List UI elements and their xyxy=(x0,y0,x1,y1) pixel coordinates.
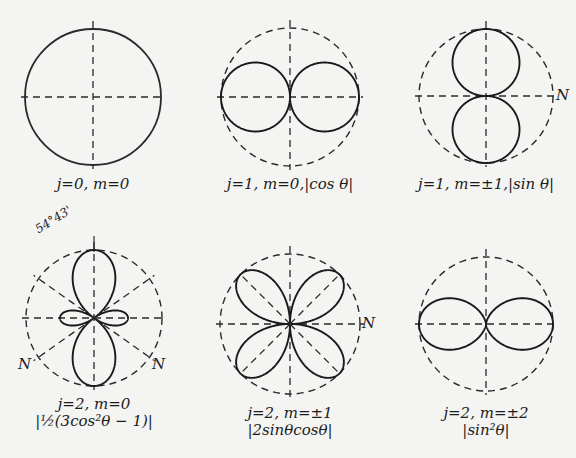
node-label-n-left: N xyxy=(18,355,31,373)
caption-line2: |½(3cos²θ − 1)| xyxy=(35,413,153,430)
diagonal-line xyxy=(241,275,290,324)
caption-j2-m2: j=2, m=±2 |sin²θ| xyxy=(443,405,528,439)
caption-j2-m0: j=2, m=0 |½(3cos²θ − 1)| xyxy=(35,396,153,430)
caption-line1: j=2, m=±1 xyxy=(247,405,332,422)
polar-plots-canvas xyxy=(0,0,576,458)
caption-line1: j=0, m=0 xyxy=(57,175,130,193)
caption-line1: j=2, m=±2 xyxy=(443,405,528,422)
caption-j1-m0: j=1, m=0,|cos θ| xyxy=(227,176,353,193)
caption-line1: j=1, m=0,|cos θ| xyxy=(227,175,353,193)
node-label-n: N xyxy=(556,86,569,104)
caption-j2-m1: j=2, m=±1 |2sinθcosθ| xyxy=(247,405,332,439)
caption-line1: j=1, m=±1,|sin θ| xyxy=(418,175,554,193)
node-label-n-right: N xyxy=(152,355,165,373)
caption-line1: j=2, m=0 xyxy=(35,396,153,413)
caption-line2: |sin²θ| xyxy=(443,422,528,439)
node-label-n: N xyxy=(362,314,375,332)
caption-j1-m1: j=1, m=±1,|sin θ| xyxy=(418,176,554,193)
angular-distribution-figure: j=0, m=0 j=1, m=0,|cos θ| j=1, m=±1,|sin… xyxy=(0,0,576,458)
diagonal-line xyxy=(290,324,339,373)
diagonal-line xyxy=(290,275,339,324)
caption-line2: |2sinθcosθ| xyxy=(247,422,332,439)
diagonal-line xyxy=(241,324,290,373)
caption-j0-m0: j=0, m=0 xyxy=(57,176,130,193)
